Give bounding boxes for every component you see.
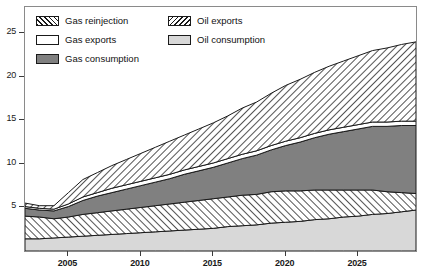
y-tick-label: 5 [0, 200, 16, 210]
oil-consumption-swatch-icon [168, 35, 191, 45]
y-tick-label: 10 [0, 157, 16, 167]
y-tick-mark [19, 163, 24, 164]
legend-label: Gas exports [65, 35, 116, 45]
legend-label: Oil consumption [197, 35, 265, 45]
legend-item-gas-reinjection: Gas reinjection [36, 14, 128, 27]
legend-label: Oil exports [197, 16, 242, 26]
oil-exports-swatch-icon [168, 16, 191, 26]
x-tick-label: 2020 [268, 258, 302, 268]
y-tick-label: 25 [0, 26, 16, 36]
gas-reinjection-swatch-icon [36, 16, 59, 26]
gas-consumption-swatch-icon [36, 54, 59, 64]
x-tick-mark [212, 251, 213, 256]
y-tick-label: 20 [0, 70, 16, 80]
x-tick-mark [285, 251, 286, 256]
legend-label: Gas reinjection [65, 16, 128, 26]
x-tick-mark [67, 251, 68, 256]
legend-item-oil-exports: Oil exports [168, 14, 242, 27]
legend-item-gas-consumption: Gas consumption [36, 52, 139, 65]
y-tick-label: 15 [0, 113, 16, 123]
x-tick-label: 2025 [340, 258, 374, 268]
legend-item-oil-consumption: Oil consumption [168, 33, 265, 46]
legend-item-gas-exports: Gas exports [36, 33, 116, 46]
legend-label: Gas consumption [65, 54, 139, 64]
chart-root: 510152025 20052010201520202025 Gas reinj… [0, 0, 421, 277]
x-tick-label: 2005 [50, 258, 84, 268]
gas-exports-swatch-icon [36, 35, 59, 45]
y-tick-mark [19, 119, 24, 120]
y-tick-mark [19, 32, 24, 33]
x-tick-mark [357, 251, 358, 256]
x-tick-label: 2010 [123, 258, 157, 268]
y-tick-mark [19, 206, 24, 207]
y-tick-mark [19, 76, 24, 77]
x-tick-label: 2015 [195, 258, 229, 268]
x-tick-mark [140, 251, 141, 256]
